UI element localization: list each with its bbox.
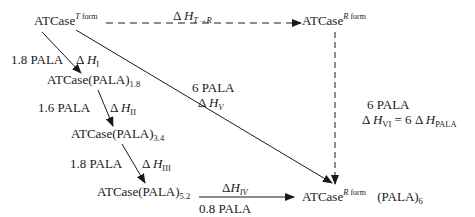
enthalpy-sub: VI	[382, 119, 391, 129]
enthalpy-sub: V	[218, 102, 223, 112]
node-suffix-sub: 6	[419, 196, 423, 206]
edge-amount-step3: 1.8 PALA	[70, 157, 122, 170]
enthalpy-symbol: H	[373, 112, 382, 127]
node-base-text: ATCase	[34, 13, 75, 28]
edge-amount-direct: 6 PALA	[192, 81, 235, 94]
node-form-text: form	[350, 188, 366, 197]
node-state-R: R	[343, 187, 348, 197]
node-stoich-sub: 5.2	[180, 191, 191, 201]
node-base-text: ATCase(PALA)	[97, 184, 180, 199]
delta-symbol: Δ	[173, 8, 181, 23]
delta-symbol: Δ	[415, 112, 423, 127]
node-base-text: ATCase(PALA)	[71, 126, 154, 141]
node-form-text: form	[350, 12, 366, 21]
enthalpy-symbol: H	[121, 100, 130, 115]
edge-label-t-to-r: Δ HT→R	[173, 9, 212, 22]
edge-amount-step1: 1.8 PALA	[11, 53, 63, 66]
enthalpy-symbol: H	[184, 8, 193, 23]
node-atcase-pala-1-8: ATCase(PALA)1.8	[47, 73, 140, 86]
node-base-text: ATCase(PALA)	[47, 72, 130, 87]
equals-text: = 6	[395, 112, 412, 127]
edge-amount-step4: 0.8 PALA	[199, 202, 251, 215]
node-suffix-text: (PALA)	[377, 189, 418, 204]
node-atcase-t-form: ATCaseTform	[34, 14, 97, 27]
enthalpy-sub: PALA	[435, 119, 456, 129]
node-state-T: T	[75, 11, 80, 21]
delta-symbol: Δ	[362, 112, 370, 127]
delta-symbol: Δ	[110, 100, 118, 115]
delta-symbol: Δ	[76, 52, 84, 67]
delta-symbol: Δ	[142, 156, 150, 171]
node-atcase-pala-5-2: ATCase(PALA)5.2	[97, 185, 190, 198]
enthalpy-symbol: H	[209, 95, 218, 110]
edge-label-direct: Δ HV	[198, 96, 224, 109]
node-base-text: ATCase	[302, 13, 343, 28]
enthalpy-symbol: H	[87, 52, 96, 67]
node-atcase-pala-3-4: ATCase(PALA)3.4	[71, 127, 164, 140]
enthalpy-sub: II	[130, 107, 136, 117]
enthalpy-sub: I	[96, 59, 99, 69]
enthalpy-sub: IV	[240, 187, 248, 197]
delta-symbol: Δ	[198, 95, 206, 110]
edge-label-step3: Δ HIII	[142, 157, 171, 170]
edge-label-step2: Δ HII	[110, 101, 136, 114]
node-state-R: R	[343, 11, 348, 21]
edge-amount-step2: 1.6 PALA	[38, 101, 90, 114]
node-base-text: ATCase	[302, 189, 343, 204]
edge-label-step1: Δ HI	[76, 53, 99, 66]
node-atcase-r-form: ATCaseRform	[302, 14, 366, 27]
enthalpy-sub: T→R	[193, 15, 211, 25]
node-atcase-r-form-pala6: ATCaseRform (PALA)6	[302, 190, 423, 203]
enthalpy-symbol: H	[153, 156, 162, 171]
node-stoich-sub: 1.8	[130, 79, 141, 89]
node-form-text: form	[82, 12, 98, 21]
edge-amount-r-binding: 6 PALA	[367, 98, 410, 111]
enthalpy-symbol: H	[230, 180, 239, 195]
node-stoich-sub: 3.4	[154, 133, 165, 143]
edge-label-r-binding: Δ HVI = 6 Δ HPALA	[362, 113, 457, 126]
enthalpy-sub: III	[162, 163, 171, 173]
edge-label-step4: ΔHIV	[222, 181, 248, 194]
enthalpy-symbol: H	[426, 112, 435, 127]
